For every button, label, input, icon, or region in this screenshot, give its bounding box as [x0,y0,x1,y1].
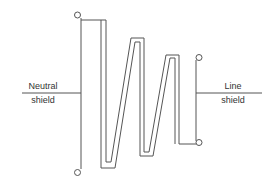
neutral-bracket [22,12,81,176]
neutral-label-line1: Neutral [28,81,57,91]
terminal-bottom-left [75,170,81,176]
terminal-bottom-right [196,140,202,146]
line-label-line2: shield [221,95,245,105]
terminal-top-left [75,12,81,18]
zigzag-shield [81,20,196,168]
line-label-line1: Line [224,81,241,91]
neutral-label-line2: shield [31,95,55,105]
terminal-top-right [196,55,202,61]
diagram-canvas: Neutral shield Line shield [0,0,274,186]
